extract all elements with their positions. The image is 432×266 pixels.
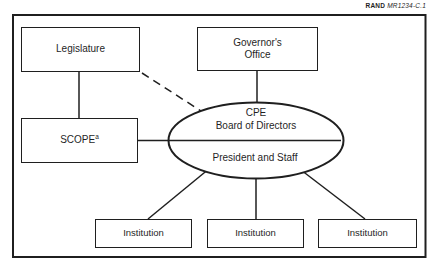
- node-institution-3-label: Institution: [347, 227, 388, 240]
- node-governors-office: Governor's Office: [197, 27, 318, 71]
- node-institution-2: Institution: [207, 219, 304, 248]
- node-institution-1-label: Institution: [123, 227, 164, 240]
- edge-legislature-cpe-dashed: [142, 73, 201, 111]
- node-institution-2-label: Institution: [235, 227, 276, 240]
- node-scope-superscript: a: [95, 133, 99, 140]
- node-scope-label: SCOPEa: [60, 134, 99, 147]
- node-scope: SCOPEa: [21, 118, 138, 163]
- cpe-board-label: CPE Board of Directors: [216, 107, 297, 132]
- node-institution-3: Institution: [318, 219, 417, 248]
- edge-staff-institution-3: [301, 170, 365, 219]
- node-legislature-label: Legislature: [56, 43, 105, 56]
- node-institution-1: Institution: [95, 219, 192, 248]
- node-governors-office-label: Governor's Office: [233, 37, 282, 62]
- node-legislature: Legislature: [21, 27, 140, 72]
- node-scope-label-text: SCOPE: [60, 134, 95, 145]
- president-staff-label: President and Staff: [213, 152, 298, 165]
- figure-canvas: RANDMR1234-C.1 Legislature Governor's Of…: [0, 0, 432, 266]
- edge-staff-institution-1: [148, 168, 210, 219]
